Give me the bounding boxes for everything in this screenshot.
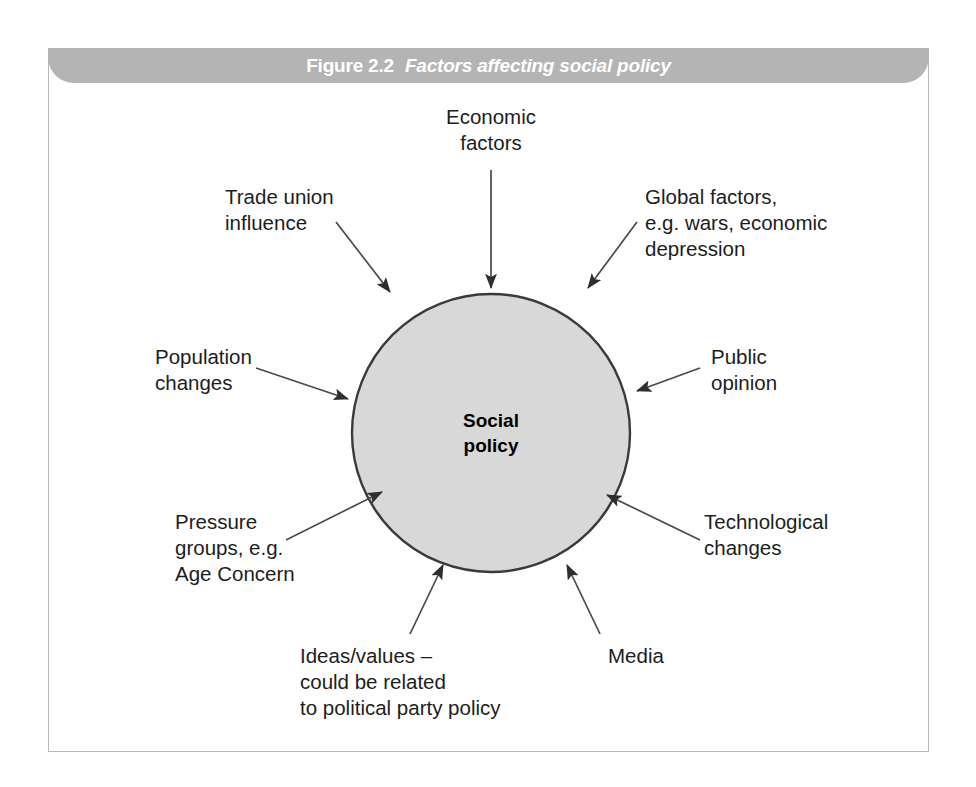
label-population-changes: Population changes bbox=[155, 344, 335, 396]
figure-number: Figure 2.2 bbox=[306, 55, 394, 77]
label-trade-union-influence: Trade union influence bbox=[225, 184, 405, 236]
center-label: Social policy bbox=[441, 408, 541, 458]
label-media: Media bbox=[608, 643, 728, 669]
figure-title: Factors affecting social policy bbox=[405, 55, 671, 77]
label-global-factors: Global factors, e.g. wars, economic depr… bbox=[645, 184, 875, 262]
label-ideas-values: Ideas/values – could be related to polit… bbox=[300, 643, 590, 721]
label-technological-changes: Technological changes bbox=[704, 509, 904, 561]
label-economic-factors: Economic factors bbox=[411, 104, 571, 156]
figure-page: Figure 2.2 Factors affecting social poli… bbox=[0, 0, 976, 787]
figure-header-banner: Figure 2.2 Factors affecting social poli… bbox=[48, 48, 929, 83]
label-public-opinion: Public opinion bbox=[711, 344, 871, 396]
label-pressure-groups: Pressure groups, e.g. Age Concern bbox=[175, 509, 365, 587]
